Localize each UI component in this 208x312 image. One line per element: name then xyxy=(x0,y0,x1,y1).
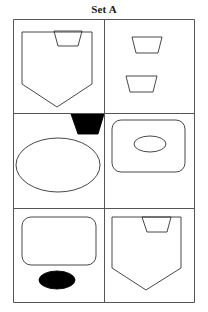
shape-grid-svg xyxy=(13,19,195,303)
figure-root: Set A xyxy=(0,0,208,312)
page-title: Set A xyxy=(0,2,208,16)
shape-grid xyxy=(13,19,195,303)
ellipse-filled xyxy=(39,271,75,289)
